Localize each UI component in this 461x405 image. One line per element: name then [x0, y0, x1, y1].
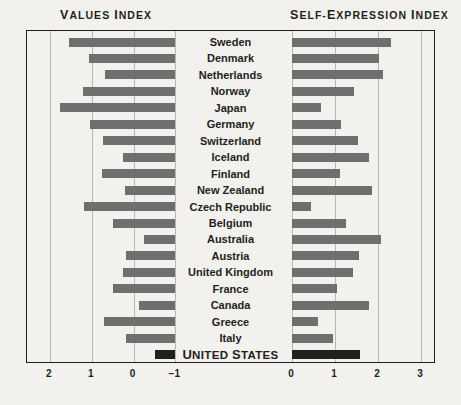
tick-selfexpr-0: 0	[288, 368, 294, 379]
country-label: Greece	[27, 314, 434, 330]
chart-row: Sweden	[27, 34, 434, 50]
country-label: France	[27, 281, 434, 297]
bar-values-index	[103, 136, 176, 145]
bar-values-index	[102, 169, 176, 178]
country-label: UNITED STATES	[27, 347, 434, 363]
chart-row: Australia	[27, 231, 434, 247]
bar-self-expression-index	[292, 120, 341, 129]
bar-self-expression-index	[292, 169, 340, 178]
chart-page: VALUES INDEX SELF-EXPRESSION INDEX Swede…	[0, 0, 461, 405]
chart-row: Denmark	[27, 50, 434, 66]
bar-self-expression-index	[292, 334, 333, 343]
values-index-header: VALUES INDEX	[60, 8, 152, 22]
chart-row: Switzerland	[27, 133, 434, 149]
chart-row: Austria	[27, 248, 434, 264]
bar-values-index	[89, 54, 176, 63]
bar-values-index	[104, 317, 175, 326]
bar-values-index	[105, 70, 176, 79]
tick-selfexpr-1: 1	[331, 368, 337, 379]
bar-self-expression-index	[292, 54, 379, 63]
chart-row: France	[27, 281, 434, 297]
tick-selfexpr-3: 3	[417, 368, 423, 379]
bar-self-expression-index	[292, 186, 372, 195]
country-label: New Zealand	[27, 182, 434, 198]
bar-values-index	[84, 202, 176, 211]
chart-row: Norway	[27, 83, 434, 99]
bar-self-expression-index	[292, 202, 311, 211]
country-label: Belgium	[27, 215, 434, 231]
bar-self-expression-index	[292, 70, 383, 79]
bar-self-expression-index	[292, 103, 321, 112]
country-label: Switzerland	[27, 133, 434, 149]
bar-self-expression-index	[292, 87, 354, 96]
bar-self-expression-index	[292, 153, 369, 162]
country-label: Iceland	[27, 149, 434, 165]
tick-selfexpr-2: 2	[374, 368, 380, 379]
chart-rows: SwedenDenmarkNetherlandsNorwayJapanGerma…	[27, 31, 434, 362]
bar-values-index	[113, 219, 175, 228]
chart-row: Japan	[27, 100, 434, 116]
chart-row: Canada	[27, 297, 434, 313]
bar-values-index	[125, 186, 175, 195]
chart-row: Belgium	[27, 215, 434, 231]
bar-self-expression-index	[292, 38, 391, 47]
chart-row: Czech Republic	[27, 199, 434, 215]
self-expression-index-header: SELF-EXPRESSION INDEX	[290, 8, 449, 22]
bar-values-index	[126, 251, 175, 260]
bar-values-index	[139, 301, 175, 310]
tick-values-1: 1	[88, 368, 94, 379]
chart-row: Iceland	[27, 149, 434, 165]
bar-values-index	[123, 153, 175, 162]
country-label: Germany	[27, 116, 434, 132]
bar-values-index	[123, 268, 176, 277]
bar-self-expression-index	[292, 284, 337, 293]
tick-values-2: 2	[46, 368, 52, 379]
bar-values-index	[60, 103, 175, 112]
country-label: United Kingdom	[27, 264, 434, 280]
bar-values-index	[113, 284, 175, 293]
bar-self-expression-index	[292, 268, 353, 277]
bar-self-expression-index	[292, 350, 360, 359]
bar-self-expression-index	[292, 317, 318, 326]
chart-row: Germany	[27, 116, 434, 132]
bar-values-index	[83, 87, 175, 96]
bar-self-expression-index	[292, 219, 346, 228]
bar-values-index	[90, 120, 176, 129]
country-label: Canada	[27, 297, 434, 313]
plot-frame: SwedenDenmarkNetherlandsNorwayJapanGerma…	[26, 30, 435, 363]
country-label: Italy	[27, 330, 434, 346]
chart-row: Netherlands	[27, 67, 434, 83]
bar-values-index	[126, 334, 175, 343]
chart-row: UNITED STATES	[27, 347, 434, 363]
tick-values-0: 0	[130, 368, 136, 379]
bar-self-expression-index	[292, 301, 369, 310]
chart-row: New Zealand	[27, 182, 434, 198]
bar-values-index	[69, 38, 176, 47]
chart-row: United Kingdom	[27, 264, 434, 280]
bar-self-expression-index	[292, 251, 359, 260]
chart-row: Finland	[27, 166, 434, 182]
bar-values-index	[144, 235, 176, 244]
chart-row: Italy	[27, 330, 434, 346]
bar-values-index	[155, 350, 175, 359]
country-label: Austria	[27, 248, 434, 264]
bar-self-expression-index	[292, 136, 358, 145]
tick-values-neg1: −1	[169, 368, 180, 379]
bar-self-expression-index	[292, 235, 381, 244]
chart-row: Greece	[27, 314, 434, 330]
country-label: Finland	[27, 166, 434, 182]
